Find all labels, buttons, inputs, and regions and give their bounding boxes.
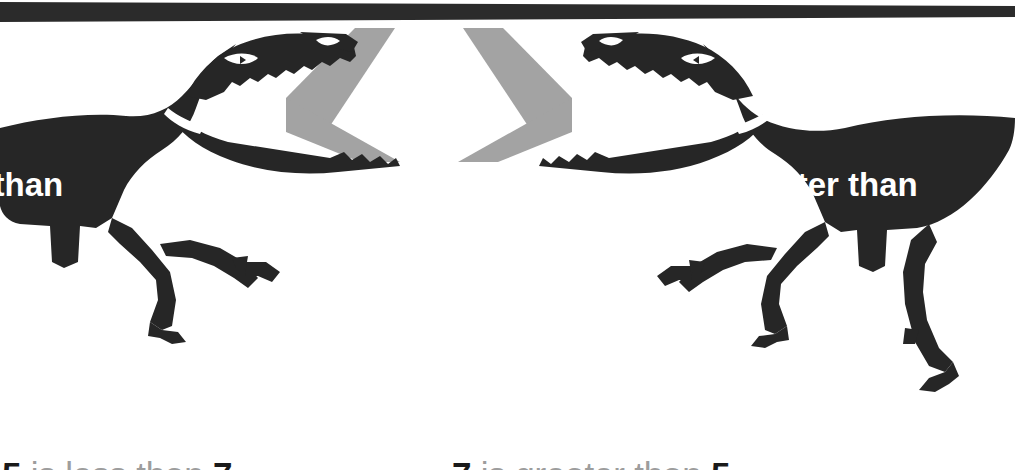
right-dinosaur-front-leg <box>761 222 829 334</box>
right-dinosaur-hind-leg <box>903 224 953 372</box>
sentence-first-number: 5 <box>2 455 21 470</box>
right-dinosaur-label: greater than <box>727 166 918 204</box>
greater-than-sentence: 7 is greater than 5 <box>452 455 730 470</box>
less-than-sentence: 5 is less than 7 <box>2 455 232 470</box>
sentence-second-number: 7 <box>213 455 232 470</box>
sentence-first-number: 7 <box>452 455 471 470</box>
left-dinosaur-label: s than <box>0 166 63 204</box>
right-dinosaur-body <box>703 44 1015 272</box>
right-dinosaur-lower-jaw <box>539 114 765 174</box>
sentence-phrase: is less than <box>21 455 213 470</box>
greater-than-caption: 7 is greater than 5 7 > 5 <box>452 375 730 470</box>
left-dinosaur-front-leg <box>108 218 176 330</box>
sentence-phrase: is greater than <box>471 455 711 470</box>
right-dinosaur <box>539 32 1015 392</box>
less-than-caption: 5 is less than 7 5 < 7 <box>2 375 232 470</box>
top-border-bar <box>0 2 1015 22</box>
greater-than-chevron <box>458 28 572 162</box>
sentence-second-number: 5 <box>711 455 730 470</box>
